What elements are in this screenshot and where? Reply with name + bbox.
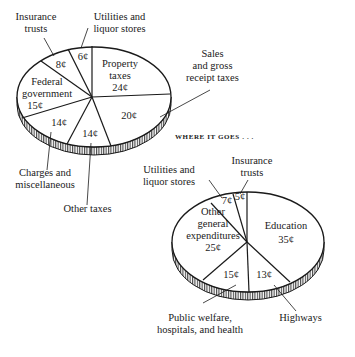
label-line: taxes xyxy=(95,70,145,82)
label-line: Insurance xyxy=(6,11,66,23)
label-line: Other xyxy=(180,206,246,218)
value-utilities-income: 6¢ xyxy=(76,51,90,63)
value-sales-taxes: 20¢ xyxy=(118,110,140,122)
label-line: Utilities and xyxy=(82,11,157,23)
label-line: Education xyxy=(256,220,316,232)
label-education: Education 35¢ xyxy=(256,220,316,246)
label-line: receipt taxes xyxy=(175,72,250,84)
label-sales-taxes: Sales and gross receipt taxes xyxy=(175,48,250,84)
label-insurance-trusts-income: Insurance trusts xyxy=(6,11,66,35)
value-education: 35¢ xyxy=(256,234,316,246)
label-highways: Highways xyxy=(273,312,328,324)
label-line: Utilities and xyxy=(133,164,205,176)
value-insurance-expenditure: 5¢ xyxy=(233,191,247,203)
label-line: Charges and xyxy=(10,167,80,179)
value-highways: 13¢ xyxy=(253,269,275,281)
label-insurance-trusts-expenditure: Insurance trusts xyxy=(222,155,282,179)
value-property-taxes: 24¢ xyxy=(95,82,145,94)
value-federal-government: 15¢ xyxy=(24,100,46,112)
label-line: general xyxy=(180,218,246,230)
label-line: trusts xyxy=(6,23,66,35)
value-insurance-income: 8¢ xyxy=(54,59,68,71)
label-line: Property xyxy=(95,58,145,70)
label-line: Federal xyxy=(17,76,77,88)
label-public-welfare: Public welfare, hospitals, and health xyxy=(145,312,255,336)
value-welfare: 15¢ xyxy=(220,269,242,281)
value-charges: 14¢ xyxy=(48,117,70,129)
label-line: government xyxy=(17,88,77,100)
label-line: trusts xyxy=(222,167,282,179)
label-line: liquor stores xyxy=(82,23,157,35)
chart-figure: Insurance trusts Utilities and liquor st… xyxy=(0,0,355,357)
label-line: miscellaneous xyxy=(10,179,80,191)
label-line: expenditures xyxy=(180,230,246,242)
label-line: Sales xyxy=(175,48,250,60)
label-other-general: Other general expenditures 25¢ xyxy=(180,206,246,254)
label-other-taxes: Other taxes xyxy=(55,203,120,215)
label-line: hospitals, and health xyxy=(145,324,255,336)
value-other-general: 25¢ xyxy=(180,242,246,254)
caption-where-it-goes: WHERE IT GOES . . . xyxy=(175,133,254,141)
label-property-taxes: Property taxes 24¢ xyxy=(95,58,145,94)
label-charges-misc: Charges and miscellaneous xyxy=(10,167,80,191)
label-line: Insurance xyxy=(222,155,282,167)
label-utilities-expenditure: Utilities and liquor stores xyxy=(133,164,205,188)
label-line: and gross xyxy=(175,60,250,72)
label-line: Public welfare, xyxy=(145,312,255,324)
label-utilities-income: Utilities and liquor stores xyxy=(82,11,157,35)
value-other-taxes: 14¢ xyxy=(79,128,101,140)
label-federal-government: Federal government xyxy=(17,76,77,100)
label-line: liquor stores xyxy=(133,176,205,188)
